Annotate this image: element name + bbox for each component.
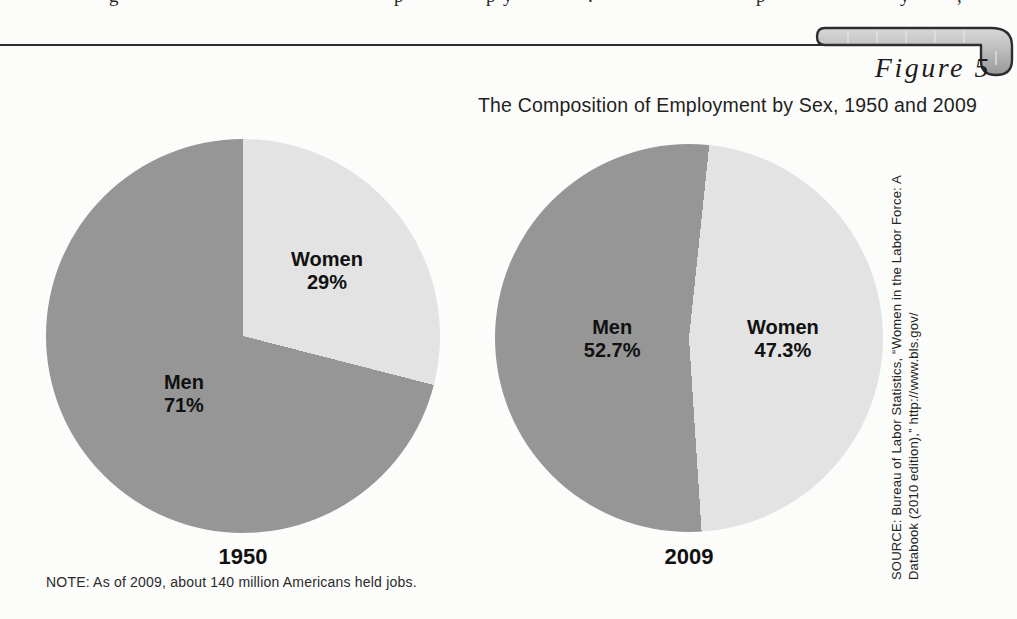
pie-1950-circle bbox=[46, 139, 440, 533]
pie-2009-men-label: Men 52.7% bbox=[584, 316, 641, 362]
source-line-2: Databook (2010 edition),” http://www.bls… bbox=[905, 130, 922, 580]
cropped-glyph: p bbox=[394, 0, 404, 7]
pie-2009-women-label: Women 47.3% bbox=[747, 316, 819, 362]
slice-value: 52.7% bbox=[584, 339, 641, 362]
slice-name: Women bbox=[291, 248, 363, 271]
source-line-1: SOURCE: Bureau of Labor Statistics, “Wom… bbox=[888, 130, 905, 580]
pie-2009-circle bbox=[495, 144, 883, 532]
cropped-glyph: y bbox=[900, 0, 910, 7]
slice-value: 29% bbox=[291, 271, 363, 294]
pie-chart-2009: Men 52.7% Women 47.3% bbox=[495, 144, 883, 532]
cropped-glyph: p bbox=[486, 0, 496, 7]
slice-value: 71% bbox=[164, 394, 204, 417]
cropped-glyph: g bbox=[109, 0, 119, 7]
note-text: NOTE: As of 2009, about 140 million Amer… bbox=[46, 574, 417, 590]
cropped-glyph: . bbox=[588, 0, 593, 7]
pie-1950-men-label: Men 71% bbox=[164, 371, 204, 417]
pie-2009-year-label: 2009 bbox=[495, 544, 883, 570]
slice-name: Men bbox=[584, 316, 641, 339]
cropped-glyph: y bbox=[503, 0, 513, 7]
figure-title: The Composition of Employment by Sex, 19… bbox=[417, 94, 977, 117]
cropped-glyph: p bbox=[756, 0, 766, 7]
pie-chart-1950: Women 29% Men 71% bbox=[46, 139, 440, 533]
pie-1950-women-label: Women 29% bbox=[291, 248, 363, 294]
slice-value: 47.3% bbox=[747, 339, 819, 362]
slice-name: Women bbox=[747, 316, 819, 339]
slice-name: Men bbox=[164, 371, 204, 394]
pie-1950-year-label: 1950 bbox=[46, 544, 440, 570]
figure-panel: gppy.py, Figure 5 The Composition of Emp… bbox=[0, 0, 1017, 619]
figure-label: Figure 5 bbox=[875, 52, 991, 84]
top-cropped-text: gppy.py, bbox=[0, 0, 1017, 7]
cropped-glyph: , bbox=[957, 0, 962, 7]
source-text: SOURCE: Bureau of Labor Statistics, “Wom… bbox=[888, 130, 922, 580]
